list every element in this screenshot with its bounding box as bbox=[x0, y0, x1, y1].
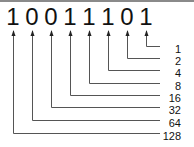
arrow-head-icon bbox=[88, 30, 92, 36]
arrow-head-icon bbox=[69, 30, 73, 36]
arrow-head-icon bbox=[12, 30, 16, 36]
arrow-head-icon bbox=[126, 30, 130, 36]
arrow-head-icon bbox=[31, 30, 35, 36]
place-value-2: 2 bbox=[157, 55, 181, 67]
arrow-bit-2 bbox=[128, 31, 161, 59]
arrow-bit-8 bbox=[90, 31, 161, 84]
arrow-head-icon bbox=[50, 30, 54, 36]
arrow-head-icon bbox=[107, 30, 111, 36]
place-value-128: 128 bbox=[157, 130, 181, 142]
place-value-8: 8 bbox=[157, 80, 181, 92]
arrow-head-icon bbox=[145, 30, 149, 36]
place-value-4: 4 bbox=[157, 67, 181, 79]
place-value-16: 16 bbox=[157, 92, 181, 104]
arrow-bit-4 bbox=[109, 31, 161, 71]
arrow-bit-128 bbox=[14, 31, 161, 134]
place-value-1: 1 bbox=[157, 43, 181, 55]
arrow-bit-32 bbox=[52, 31, 161, 108]
place-value-32: 32 bbox=[157, 104, 181, 116]
place-value-64: 64 bbox=[157, 117, 181, 129]
